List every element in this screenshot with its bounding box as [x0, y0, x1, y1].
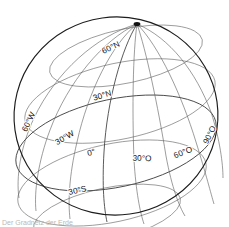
label-meridian-30o: 30°O [132, 154, 151, 164]
globe-figure: 60°N 30°N 30°S 60°W 30°W 0° 30°O 60°O 90… [0, 0, 229, 227]
globe-graticule-svg: 60°N 30°N 30°S 60°W 30°W 0° 30°O 60°O 90… [0, 0, 229, 227]
north-pole-marker [134, 22, 141, 26]
figure-caption: Der Gradnetz der Erde [2, 218, 152, 227]
